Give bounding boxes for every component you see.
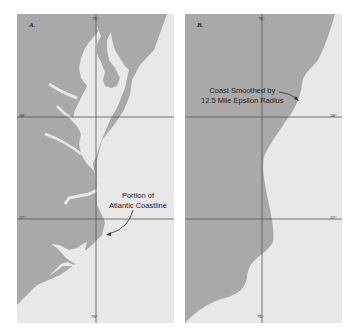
latitude-label-37: 37° <box>19 215 26 220</box>
latitude-label-38: 38° <box>330 113 337 118</box>
coastline-map-detailed <box>17 14 174 323</box>
land-mass-smoothed <box>185 14 335 323</box>
panel-label: A. <box>29 21 35 29</box>
annotation-line-2: 12.5 Mile Epsilon Radius <box>201 96 284 106</box>
longitude-label-bottom: 76° <box>91 314 98 319</box>
coastline-map-smoothed <box>185 14 342 323</box>
latitude-label-37: 37° <box>330 215 337 220</box>
annotation-text: Portion of Atlantic Coastline <box>109 191 167 211</box>
longitude-label-bottom: 76° <box>257 314 264 319</box>
annotation-arrow <box>109 210 133 234</box>
map-panel-a: A. 76° 76° 38° 37° Portion of Atlantic C… <box>17 14 174 323</box>
annotation-text: Coast Smoothed by 12.5 Mile Epsilon Radi… <box>201 86 284 106</box>
annotation-line-1: Coast Smoothed by <box>201 86 284 96</box>
annotation-line-2: Atlantic Coastline <box>109 201 167 211</box>
map-panel-b: B. 76° 76° 38° 37° Coast Smoothed by 12.… <box>185 14 342 323</box>
latitude-label-38: 38° <box>19 113 26 118</box>
longitude-label-top: 76° <box>258 16 265 21</box>
annotation-line-1: Portion of <box>109 191 167 201</box>
arrowhead <box>106 232 111 236</box>
panel-label: B. <box>197 21 203 29</box>
longitude-label-top: 76° <box>92 16 99 21</box>
